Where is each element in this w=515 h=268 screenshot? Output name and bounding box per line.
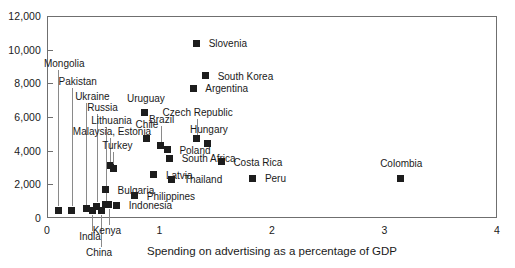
label-leader-line	[109, 209, 110, 225]
label-leader-line	[113, 152, 114, 164]
data-point-marker	[193, 135, 200, 142]
y-axis-tick-mark	[47, 50, 53, 51]
data-point-label: Czech Republic	[163, 108, 233, 118]
y-axis-tick-label: 10,000	[0, 44, 41, 56]
data-point-label: Thailand	[184, 175, 222, 185]
data-point-label: Colombia	[380, 159, 422, 169]
data-point-label: Costa Rica	[233, 158, 282, 168]
data-point-marker	[131, 192, 138, 199]
data-point-label: Uruguay	[127, 94, 165, 104]
y-axis-tick-label: 12,000	[0, 10, 41, 22]
data-point-label: Mongolia	[44, 59, 85, 69]
data-point-label: Lithuania	[91, 116, 132, 126]
x-axis-title: Spending on advertising as a percentage …	[47, 245, 497, 257]
data-point-label: Philippines	[147, 192, 195, 202]
data-point-label: Ukraine	[75, 92, 109, 102]
data-point-label: Kenya	[93, 226, 121, 236]
y-axis-tick-mark	[47, 16, 53, 17]
y-axis-tick-label: 6,000	[0, 111, 41, 123]
data-point-marker	[55, 207, 62, 214]
data-point-marker	[166, 155, 173, 162]
x-axis-tick-label: 2	[252, 224, 292, 236]
label-leader-line	[72, 88, 73, 206]
data-point-label: South Korea	[218, 72, 274, 82]
data-point-label: Pakistan	[59, 77, 97, 87]
data-point-marker	[204, 140, 211, 147]
data-point-marker	[113, 202, 120, 209]
data-point-marker	[190, 85, 197, 92]
y-axis-tick-label: 4,000	[0, 145, 41, 157]
data-point-label: Turkey	[102, 141, 132, 151]
data-point-label: Russia	[87, 103, 118, 113]
data-point-marker	[68, 207, 75, 214]
y-axis-tick-mark	[47, 151, 53, 152]
scatter-chart: 02,0004,0006,0008,00010,00012,000 01234 …	[0, 0, 515, 268]
data-point-label: Hungary	[190, 125, 228, 135]
label-leader-line	[161, 126, 162, 142]
label-leader-line	[58, 70, 59, 206]
data-point-marker	[249, 175, 256, 182]
data-point-marker	[218, 158, 225, 165]
y-axis-tick-mark	[47, 117, 53, 118]
label-leader-line	[86, 103, 87, 205]
data-point-label: Slovenia	[209, 39, 247, 49]
data-point-marker	[102, 186, 109, 193]
data-point-marker	[164, 146, 171, 153]
data-point-label: Argentina	[205, 84, 248, 94]
data-point-marker	[89, 207, 96, 214]
x-axis-tick-label: 4	[477, 224, 515, 236]
data-point-marker	[168, 176, 175, 183]
y-axis-tick-mark	[47, 83, 53, 84]
data-point-marker	[105, 201, 112, 208]
y-axis-tick-mark	[47, 184, 53, 185]
data-point-label: Poland	[179, 146, 210, 156]
x-axis-tick-label: 3	[365, 224, 405, 236]
y-axis-tick-label: 8,000	[0, 77, 41, 89]
y-axis-tick-label: 0	[0, 212, 41, 224]
data-point-label: Peru	[265, 174, 286, 184]
data-point-marker	[110, 165, 117, 172]
data-point-marker	[143, 135, 150, 142]
data-point-marker	[193, 40, 200, 47]
x-axis-tick-label: 1	[140, 224, 180, 236]
data-point-marker	[397, 175, 404, 182]
data-point-marker	[150, 171, 157, 178]
data-point-marker	[141, 109, 148, 116]
y-axis-tick-label: 2,000	[0, 178, 41, 190]
data-point-label: Indonesia	[129, 201, 172, 211]
data-point-marker	[202, 72, 209, 79]
x-axis-tick-label: 0	[27, 224, 67, 236]
data-point-marker	[98, 207, 105, 214]
